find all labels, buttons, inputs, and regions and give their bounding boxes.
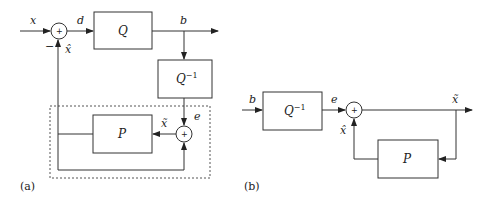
error-label-e: e [331, 93, 338, 106]
plus-sign: + [181, 130, 188, 139]
quantizer-block: Q [94, 12, 152, 49]
prediction-to-sum-arrow [354, 119, 378, 159]
inverse-quantizer-base: Q [176, 72, 186, 86]
prediction-label-xhat: x̂ [340, 124, 347, 137]
reconstruction-label-xtilde: x̃ [161, 117, 168, 130]
difference-label-d: d [77, 14, 84, 27]
input-label-x: x [30, 14, 37, 27]
inverse-quantizer-base: Q [284, 104, 294, 118]
inverse-quantizer-exp: −1 [186, 71, 198, 80]
inverse-quantizer-block: Q−1 [263, 92, 322, 130]
summing-junction-2: + [176, 126, 192, 142]
output-label-b: b [180, 14, 187, 27]
prediction-label-xhat: x̂ [65, 43, 72, 56]
encoder-diagram: x + − x̂ d Q b Q−1 e [20, 12, 218, 193]
output-label-xtilde: x̃ [452, 93, 459, 106]
decoder-diagram: b Q−1 e + x̃ P x̂ (b) [242, 92, 472, 193]
dpcm-diagram: x + − x̂ d Q b Q−1 e [0, 0, 489, 203]
predictor-label: P [402, 152, 412, 166]
inverse-quantizer-exp: −1 [294, 103, 306, 112]
predictor-block: P [93, 115, 152, 153]
minus-sign: − [45, 40, 54, 53]
error-label-e: e [194, 110, 201, 123]
caption-a: (a) [20, 180, 35, 193]
inverse-quantizer-block: Q−1 [158, 60, 212, 98]
summing-junction-1: + [51, 23, 67, 39]
feedback-arrow [439, 110, 456, 159]
input-label-b: b [249, 93, 256, 106]
predictor-label: P [117, 127, 127, 141]
plus-sign: + [56, 27, 63, 36]
quantizer-label: Q [118, 24, 128, 38]
plus-sign: + [351, 106, 358, 115]
summing-junction: + [346, 102, 362, 118]
caption-b: (b) [244, 180, 260, 193]
predictor-block: P [378, 140, 438, 178]
